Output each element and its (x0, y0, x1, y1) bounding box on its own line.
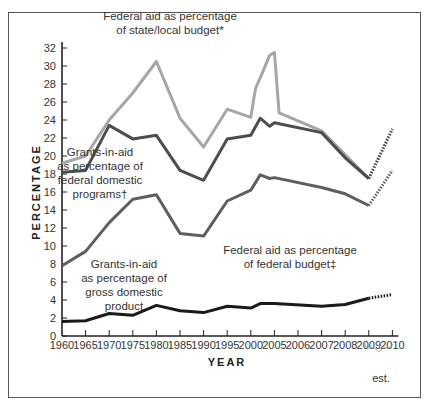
x-tick-label: 1975 (121, 339, 145, 351)
x-tick-label: 1980 (144, 339, 168, 351)
series-label: Federal aid as percentage (103, 10, 237, 22)
series-estimate-line (369, 129, 393, 179)
y-tick-label: 18 (44, 168, 56, 180)
series-label: Federal aid as percentage (223, 244, 357, 256)
y-tick-label: 10 (44, 240, 56, 252)
x-tick-label: 1970 (97, 339, 121, 351)
x-tick-label: 1985 (168, 339, 192, 351)
estimate-note: est. (372, 372, 390, 384)
y-tick-label: 12 (44, 222, 56, 234)
x-tick-label: 2008 (333, 339, 357, 351)
series-label: product (105, 300, 144, 312)
series-labels: Federal aid as percentageof state/local … (57, 10, 357, 312)
y-tick-label: 14 (44, 204, 56, 216)
y-tick-label: 22 (44, 132, 56, 144)
x-tick-label: 1990 (191, 339, 215, 351)
y-tick-label: 24 (44, 114, 56, 126)
x-tick-label: 2006 (286, 339, 310, 351)
y-tick-label: 28 (44, 78, 56, 90)
series-estimate-line (369, 170, 393, 205)
y-tick-label: 20 (44, 150, 56, 162)
x-tick-label: 1995 (215, 339, 239, 351)
series-label: of federal budget‡ (244, 258, 337, 270)
series-label: Grants-in-aid (91, 258, 157, 270)
series-label: federal domestic (58, 174, 143, 186)
series-estimate-line (369, 295, 393, 299)
y-tick-label: 4 (50, 294, 56, 306)
y-tick-label: 32 (44, 42, 56, 54)
series-label: of state/local budget* (116, 24, 224, 36)
series-label: gross domestic (85, 286, 163, 298)
line-chart: 0246810121416182022242628303219601965197… (0, 0, 429, 409)
y-tick-label: 26 (44, 96, 56, 108)
y-tick-label: 8 (50, 258, 56, 270)
x-tick-label: 1960 (50, 339, 74, 351)
y-tick-label: 16 (44, 186, 56, 198)
series-label: as percentage of (81, 272, 167, 284)
x-tick-label: 2009 (357, 339, 381, 351)
y-tick-label: 2 (50, 312, 56, 324)
y-tick-label: 30 (44, 60, 56, 72)
x-tick-label: 2005 (262, 339, 286, 351)
series-label: Grants-in-aid (67, 146, 133, 158)
series-label: as percentage of (57, 160, 143, 172)
series-label: programs† (73, 188, 128, 200)
x-axis-title: YEAR (208, 356, 247, 368)
y-tick-label: 6 (50, 276, 56, 288)
x-tick-label: 2007 (309, 339, 333, 351)
x-tick-label: 2000 (239, 339, 263, 351)
x-tick-label: 1965 (73, 339, 97, 351)
y-axis-title: PERCENTAGE (30, 144, 42, 240)
